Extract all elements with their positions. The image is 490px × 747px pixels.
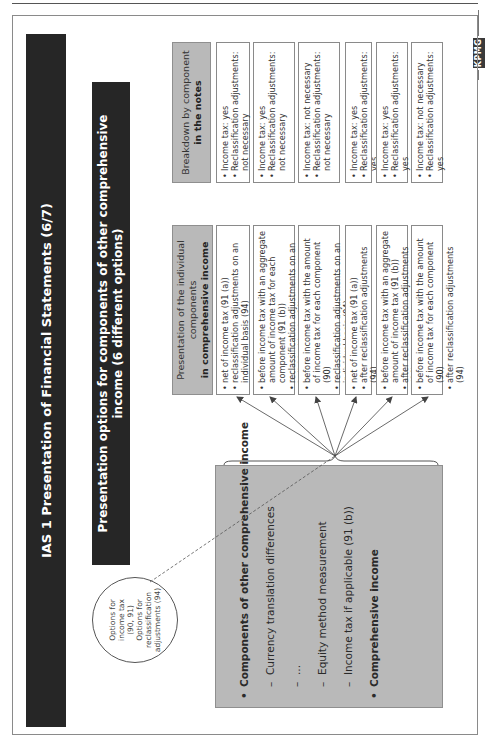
- notes-point: Reclassification adjustments: not necess…: [267, 47, 287, 178]
- notes-option-4: Income tax: yes Reclassification adjustm…: [345, 42, 372, 183]
- notes-option-2: Income tax: yes Reclassification adjustm…: [253, 42, 295, 183]
- oci-item: –Equity method measurement: [312, 474, 338, 699]
- header-line-bold: in comprehensive income: [199, 242, 211, 379]
- rotated-slide: IAS 1 Presentation of Financial Statemen…: [0, 0, 490, 747]
- notes-option-1: Income tax: yes Reclassification adjustm…: [216, 42, 250, 183]
- notes-option-6: Income tax: not necessary Reclassificati…: [411, 42, 443, 183]
- presentation-option-6: before income tax with the amount of inc…: [411, 225, 443, 395]
- option-point: before income tax with the amount of inc…: [302, 230, 332, 390]
- notes-point: Income tax: yes: [220, 47, 230, 178]
- presentation-option-2: before income tax with an aggregate amou…: [253, 225, 295, 395]
- option-point: net of income tax (91 (a)): [220, 230, 230, 390]
- oci-item: –...: [286, 474, 312, 699]
- oci-item: –Currency translation differences: [260, 474, 286, 699]
- presentation-option-4: net of income tax (91 (a)) after reclass…: [345, 225, 372, 395]
- callout-line: reclassification: [144, 588, 153, 652]
- dash-icon: –: [338, 675, 358, 687]
- header-line: Breakdown by component: [180, 50, 192, 174]
- presentation-column-header: Presentation of the individual component…: [172, 225, 213, 395]
- notes-point: Income tax: yes: [349, 47, 359, 178]
- notes-option-3: Income tax: not necessary Reclassificati…: [298, 42, 340, 183]
- header-line: components: [187, 281, 199, 340]
- oci-heading: •Components of other comprehensive incom…: [234, 474, 260, 699]
- oci-heading-text: Components of other comprehensive income: [238, 422, 250, 687]
- oci-total: •Comprehensive income: [364, 474, 390, 699]
- notes-point: Reclassification adjustments: yes: [425, 47, 445, 178]
- options-callout-circle: Options for income tax (90, 91) Options …: [92, 577, 178, 663]
- option-point: before income tax with an aggregate amou…: [380, 230, 400, 390]
- bullet-icon: •: [364, 687, 384, 699]
- notes-point: Reclassification adjustments: not necess…: [312, 47, 332, 178]
- option-point: reclassification adjustments on an indiv…: [230, 230, 250, 390]
- callout-line: adjustments (94): [153, 588, 162, 652]
- notes-option-5: Income tax: yes Reclassification adjustm…: [376, 42, 408, 183]
- oci-item-text: Income tax if applicable (91 (b)): [342, 506, 354, 675]
- callout-line: income tax: [117, 588, 126, 652]
- notes-column-header: Breakdown by component in the notes: [172, 42, 211, 183]
- oci-item: –Income tax if applicable (91 (b)): [338, 474, 364, 699]
- page-title: IAS 1 Presentation of Financial Statemen…: [26, 34, 66, 727]
- section-subtitle: Presentation options for components of o…: [92, 82, 130, 565]
- option-point: before income tax with the amount of inc…: [415, 230, 445, 390]
- notes-point: Income tax: yes: [380, 47, 390, 178]
- notes-point: Income tax: not necessary: [415, 47, 425, 178]
- callout-line: (90, 91): [126, 588, 135, 652]
- presentation-option-3: before income tax with the amount of inc…: [298, 225, 340, 395]
- notes-point: Reclassification adjustments: not necess…: [230, 47, 250, 178]
- option-point: after reclassification adjustments (94): [445, 230, 465, 390]
- option-point: net of income tax (91 (a)): [349, 230, 359, 390]
- dash-icon: –: [286, 675, 306, 687]
- notes-point: Reclassification adjustments: yes: [390, 47, 410, 178]
- option-point: before income tax with an aggregate amou…: [257, 230, 287, 390]
- oci-item-text: ...: [290, 665, 302, 675]
- notes-point: Income tax: not necessary: [302, 47, 312, 178]
- oci-total-text: Comprehensive income: [368, 549, 380, 687]
- dash-icon: –: [260, 675, 280, 687]
- presentation-option-1: net of income tax (91 (a)) reclassificat…: [216, 225, 250, 395]
- dash-icon: –: [312, 675, 332, 687]
- callout-line: Options for: [135, 588, 144, 652]
- header-line: Presentation of the individual: [175, 240, 187, 380]
- oci-item-text: Equity method measurement: [316, 521, 328, 675]
- oci-components-box: •Components of other comprehensive incom…: [215, 465, 443, 708]
- header-line-bold: in the notes: [192, 80, 204, 144]
- oci-item-text: Currency translation differences: [264, 506, 276, 675]
- bullet-icon: •: [234, 687, 254, 699]
- callout-line: Options for: [108, 588, 117, 652]
- presentation-option-5: before income tax with an aggregate amou…: [376, 225, 408, 395]
- notes-point: Income tax: yes: [257, 47, 267, 178]
